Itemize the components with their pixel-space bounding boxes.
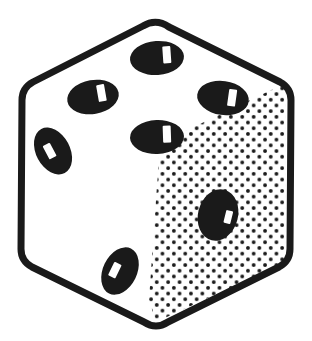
pip-highlight: [163, 126, 172, 143]
pip-highlight: [162, 46, 171, 64]
die-illustration-canvas: [0, 0, 312, 341]
die-illustration: [0, 0, 312, 341]
